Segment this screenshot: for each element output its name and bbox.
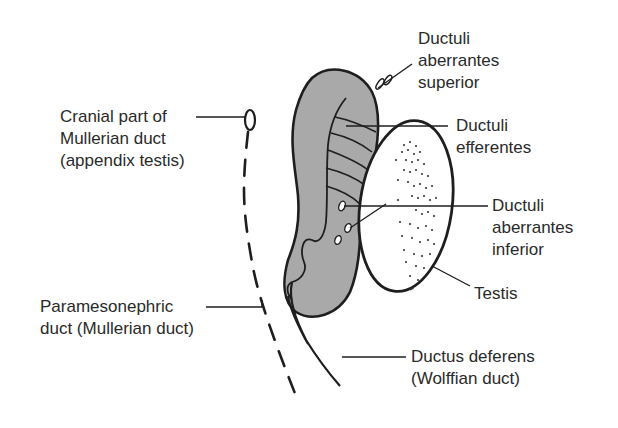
label-ductuli-aberrantes-inferior: Ductuli aberrantes inferior: [492, 195, 573, 261]
label-cranial-mullerian-duct: Cranial part of Mullerian duct (appendix…: [60, 106, 185, 172]
diagram-canvas: Cranial part of Mullerian duct (appendix…: [0, 0, 618, 428]
label-ductuli-efferentes: Ductuli efferentes: [456, 115, 531, 159]
appendix-testis: [245, 110, 255, 130]
ductuli-aberrantes-superior: [375, 74, 394, 90]
label-testis: Testis: [474, 283, 517, 305]
label-ductus-deferens: Ductus deferens (Wolffian duct): [411, 346, 535, 390]
label-ductuli-aberrantes-superior: Ductuli aberrantes superior: [418, 28, 499, 94]
label-paramesonephric-duct: Paramesonephric duct (Mullerian duct): [40, 296, 194, 340]
